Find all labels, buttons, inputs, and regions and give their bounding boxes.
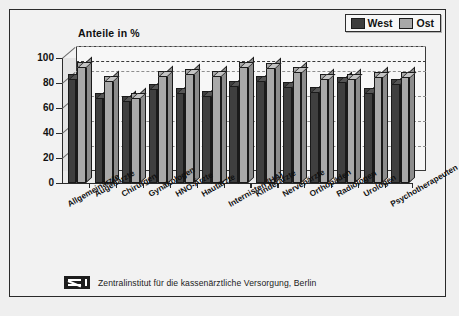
source-footer: Zentralinstitut für die kassenärztliche … [64,276,316,289]
source-text: Zentralinstitut für die kassenärztliche … [98,278,316,288]
zi-logo-icon [64,276,90,289]
x-axis-label-12: Psychotherapeuten [389,163,459,209]
